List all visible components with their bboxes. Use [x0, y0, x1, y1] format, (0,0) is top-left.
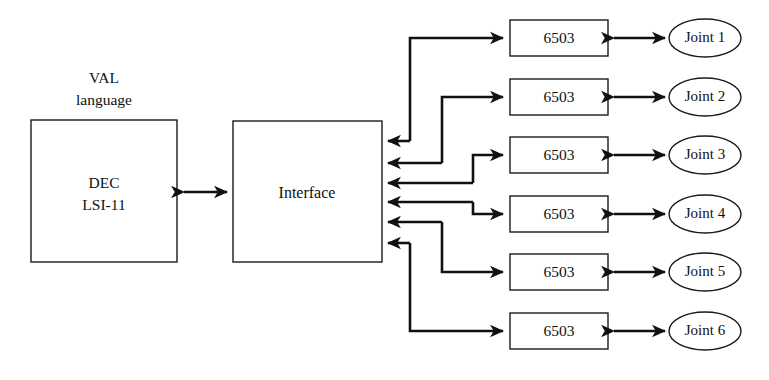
routed-path-5 [442, 222, 503, 272]
joint-label-1: Joint 1 [685, 29, 725, 45]
processor-node-2[interactable]: 6503 [510, 79, 608, 115]
processor-label-6: 6503 [544, 322, 575, 339]
routed-path-2 [442, 97, 503, 163]
joint-node-2[interactable]: Joint 2 [669, 78, 741, 116]
interface-node[interactable]: Interface [233, 121, 382, 262]
joint-node-1[interactable]: Joint 1 [669, 19, 741, 57]
routed-path-4 [473, 202, 503, 214]
joint-label-5: Joint 5 [685, 263, 725, 279]
connector-interface-proc-3 [388, 155, 503, 183]
processor-node-3[interactable]: 6503 [510, 137, 608, 173]
processor-node-5[interactable]: 6503 [510, 254, 608, 290]
joint-node-5[interactable]: Joint 5 [669, 253, 741, 291]
val-label-line2: language [76, 91, 132, 108]
dec-lsi11-box[interactable] [31, 120, 177, 262]
connector-interface-proc-6 [388, 243, 503, 331]
connector-interface-proc-5 [388, 222, 503, 272]
dec-label-line2: LSI-11 [82, 196, 125, 213]
diagram-canvas: VAL language DEC LSI-11 Interface [0, 0, 769, 380]
routed-path-3 [473, 155, 503, 183]
joint-node-4[interactable]: Joint 4 [669, 195, 741, 233]
dec-lsi11-node[interactable]: DEC LSI-11 [31, 120, 177, 262]
processor-label-1: 6503 [544, 29, 575, 46]
routed-path-1 [410, 38, 503, 141]
val-language-annotation: VAL language [76, 69, 132, 108]
processor-label-2: 6503 [544, 88, 575, 105]
processor-label-4: 6503 [544, 205, 575, 222]
connector-interface-proc-1 [388, 38, 503, 141]
interface-label: Interface [279, 184, 336, 201]
val-label-line1: VAL [89, 69, 119, 86]
joint-node-3[interactable]: Joint 3 [669, 136, 741, 174]
routed-path-6 [410, 243, 503, 331]
processor-node-1[interactable]: 6503 [510, 20, 608, 56]
processor-node-4[interactable]: 6503 [510, 196, 608, 232]
connector-interface-proc-2 [388, 97, 503, 163]
connector-interface-proc-4 [388, 202, 503, 214]
joint-label-6: Joint 6 [685, 322, 726, 338]
joint-label-4: Joint 4 [685, 205, 726, 221]
processor-node-6[interactable]: 6503 [510, 313, 608, 349]
joint-node-6[interactable]: Joint 6 [669, 312, 741, 350]
joint-label-3: Joint 3 [685, 146, 725, 162]
processor-label-5: 6503 [544, 263, 575, 280]
processor-label-3: 6503 [544, 146, 575, 163]
block-diagram: VAL language DEC LSI-11 Interface [0, 0, 769, 380]
dec-label-line1: DEC [89, 174, 120, 191]
joint-label-2: Joint 2 [685, 88, 725, 104]
